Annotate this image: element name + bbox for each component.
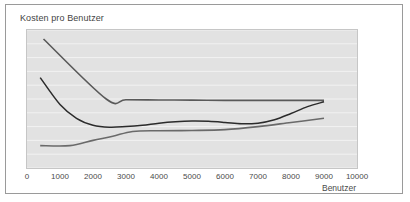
chart-figure-frame: Kosten pro Benutzer 01000200030004000500…: [5, 4, 403, 194]
chart-title: Kosten pro Benutzer: [20, 13, 104, 23]
x-tick-label: 2000: [84, 172, 102, 181]
x-tick-label: 3000: [117, 172, 135, 181]
x-tick-label: 0: [25, 172, 29, 181]
series-group: [40, 39, 324, 146]
x-tick-label: 4000: [150, 172, 168, 181]
x-tick-label: 9000: [315, 172, 333, 181]
plot-svg: [27, 30, 357, 168]
x-tick-label: 10000: [346, 172, 368, 181]
x-tick-label: 1000: [51, 172, 69, 181]
x-tick-label: 8000: [282, 172, 300, 181]
screenshot-root: Kosten pro Benutzer 01000200030004000500…: [0, 0, 410, 202]
plot-area: [26, 29, 358, 169]
x-tick-label: 6000: [216, 172, 234, 181]
series-line-3: [40, 118, 324, 146]
gridlines-group: [27, 30, 357, 168]
x-axis-title: Benutzer: [322, 183, 356, 193]
x-axis-tick-labels: 0100020003000400050006000700080009000100…: [26, 172, 358, 184]
x-tick-label: 7000: [249, 172, 267, 181]
x-tick-label: 5000: [183, 172, 201, 181]
